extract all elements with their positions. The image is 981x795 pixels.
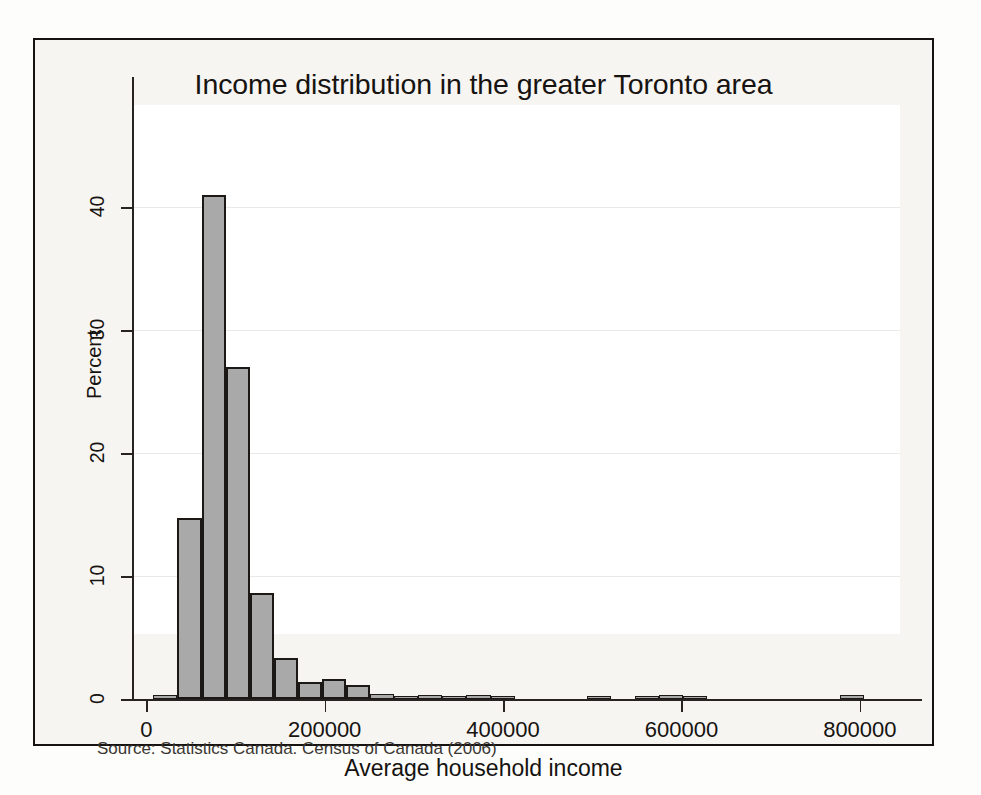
histogram-bar bbox=[226, 367, 250, 699]
chart-canvas: Income distribution in the greater Toron… bbox=[35, 40, 932, 744]
y-axis-tick bbox=[121, 207, 132, 209]
histogram-bar bbox=[202, 195, 226, 699]
x-axis-tick bbox=[503, 700, 505, 712]
histogram-bar bbox=[346, 685, 370, 699]
histogram-bar bbox=[298, 682, 322, 699]
y-axis-line bbox=[132, 77, 134, 700]
gridline bbox=[132, 330, 900, 331]
y-axis-tick bbox=[121, 453, 132, 455]
x-axis-tick bbox=[681, 700, 683, 712]
figure-frame: Income distribution in the greater Toron… bbox=[33, 38, 934, 746]
x-axis-tick-label: 800000 bbox=[823, 717, 896, 743]
histogram-bar bbox=[177, 518, 201, 699]
figure-root: Income distribution in the greater Toron… bbox=[0, 0, 981, 795]
x-axis-line bbox=[132, 699, 922, 701]
y-axis-tick-label: 10 bbox=[86, 559, 109, 593]
histogram-bar bbox=[250, 593, 274, 699]
x-axis-tick bbox=[325, 700, 327, 712]
x-axis-tick-label: 600000 bbox=[645, 717, 718, 743]
histogram-bar bbox=[274, 658, 298, 699]
x-axis-title: Average household income bbox=[35, 755, 932, 782]
plot-area: 010203040 0200000400000600000800000 Perc… bbox=[132, 105, 900, 634]
y-axis-tick-label: 0 bbox=[86, 682, 109, 716]
source-note: Source: Statistics Canada. Census of Can… bbox=[97, 739, 497, 759]
chart-title: Income distribution in the greater Toron… bbox=[35, 68, 932, 101]
y-axis-tick bbox=[121, 699, 132, 701]
y-axis-tick bbox=[121, 330, 132, 332]
x-axis-tick bbox=[860, 700, 862, 712]
histogram-bar bbox=[322, 679, 346, 699]
y-axis-tick-label: 40 bbox=[86, 190, 109, 224]
y-axis-tick bbox=[121, 576, 132, 578]
gridline bbox=[132, 207, 900, 208]
y-axis-title: Percent bbox=[83, 285, 106, 445]
x-axis-tick bbox=[146, 700, 148, 712]
